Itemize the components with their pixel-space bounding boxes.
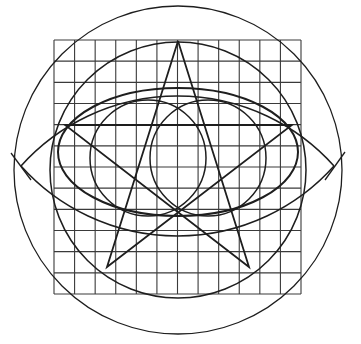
geometric-construction-diagram xyxy=(0,0,361,344)
diagram-svg xyxy=(0,0,361,344)
pentagram-star xyxy=(65,41,292,267)
